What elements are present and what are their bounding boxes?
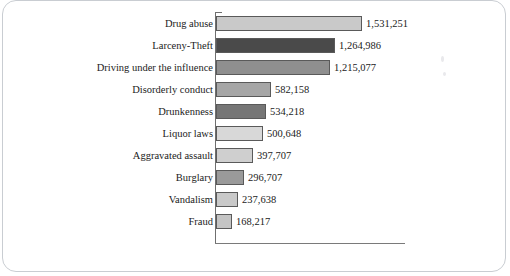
bar-row: Burglary 296,707 bbox=[0, 168, 510, 190]
bar-category-label: Larceny-Theft bbox=[13, 38, 213, 54]
scan-speckle bbox=[443, 72, 446, 76]
bar-rect bbox=[216, 38, 335, 53]
bar-value-label: 500,648 bbox=[267, 126, 301, 142]
scan-speckle bbox=[441, 56, 444, 62]
bar-category-label: Driving under the influence bbox=[13, 60, 213, 76]
bar-category-label: Aggravated assault bbox=[13, 148, 213, 164]
bar-rect bbox=[216, 170, 244, 185]
bar-value-label: 582,158 bbox=[275, 82, 309, 98]
bar-rect bbox=[216, 126, 263, 141]
bar-value-label: 237,638 bbox=[242, 192, 276, 208]
value-axis-baseline bbox=[215, 243, 405, 244]
bar-row: Vandalism 237,638 bbox=[0, 190, 510, 212]
bar-rect bbox=[216, 104, 266, 119]
bar-row: Larceny-Theft 1,264,986 bbox=[0, 36, 510, 58]
bar-category-label: Drug abuse bbox=[13, 16, 213, 32]
bar-row: Fraud 168,217 bbox=[0, 212, 510, 234]
bar-value-label: 1,531,251 bbox=[366, 16, 408, 32]
bar-rect bbox=[216, 82, 271, 97]
bar-rect bbox=[216, 60, 330, 75]
bar-category-label: Drunkenness bbox=[13, 104, 213, 120]
axis-top-tick bbox=[215, 12, 222, 13]
bar-chart: Drug abuse 1,531,251 Larceny-Theft 1,264… bbox=[0, 0, 510, 276]
bar-value-label: 397,707 bbox=[257, 148, 291, 164]
bar-row: Aggravated assault 397,707 bbox=[0, 146, 510, 168]
bar-value-label: 168,217 bbox=[236, 214, 270, 230]
bar-value-label: 534,218 bbox=[270, 104, 304, 120]
bar-row: Drunkenness 534,218 bbox=[0, 102, 510, 124]
bar-rect bbox=[216, 148, 253, 163]
bar-rect bbox=[216, 214, 232, 229]
bar-category-label: Burglary bbox=[13, 170, 213, 186]
bar-category-label: Liquor laws bbox=[13, 126, 213, 142]
bar-row: Drug abuse 1,531,251 bbox=[0, 14, 510, 36]
bar-rect bbox=[216, 16, 362, 31]
bar-value-label: 1,215,077 bbox=[334, 60, 376, 76]
bar-row: Liquor laws 500,648 bbox=[0, 124, 510, 146]
bar-category-label: Fraud bbox=[13, 214, 213, 230]
bar-rect bbox=[216, 192, 238, 207]
bar-row: Disorderly conduct 582,158 bbox=[0, 80, 510, 102]
bar-value-label: 296,707 bbox=[248, 170, 282, 186]
bar-category-label: Vandalism bbox=[13, 192, 213, 208]
bar-row: Driving under the influence 1,215,077 bbox=[0, 58, 510, 80]
bar-category-label: Disorderly conduct bbox=[13, 82, 213, 98]
bar-value-label: 1,264,986 bbox=[339, 38, 381, 54]
